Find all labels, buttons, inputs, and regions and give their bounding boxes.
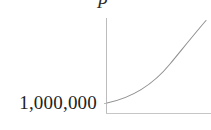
y-tick-label: 1,000,000	[19, 93, 97, 112]
exponential-curve	[107, 21, 206, 104]
y-axis-label: P	[97, 0, 107, 11]
exponential-growth-figure: P 1,000,000	[0, 0, 211, 130]
